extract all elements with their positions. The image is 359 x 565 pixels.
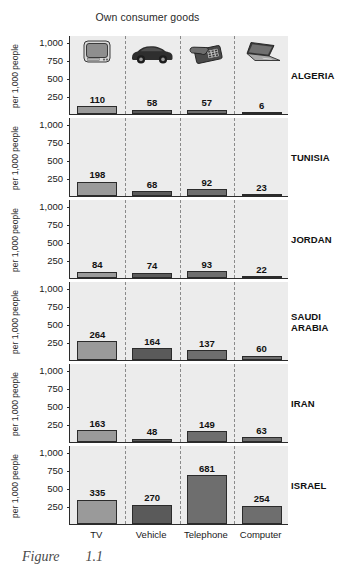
bar-value-label: 149 <box>199 420 215 430</box>
category-cell: 6 <box>234 36 289 114</box>
plot-area: 26416413760 <box>69 282 288 361</box>
bar <box>132 348 172 360</box>
bar <box>132 439 172 442</box>
bar <box>187 475 227 524</box>
plot-area: 110 58 57 6 <box>69 36 288 115</box>
y-tick-label: 500 <box>47 402 63 412</box>
category-cell: 110 <box>70 36 125 114</box>
category-cell: 23 <box>234 118 289 196</box>
country-label: IRAN <box>291 398 315 410</box>
y-axis-ticks: 1,000750500250 <box>20 364 66 443</box>
y-tick-label: 750 <box>47 302 63 312</box>
bar-value-label: 270 <box>144 493 160 503</box>
bar-value-label: 254 <box>254 494 270 504</box>
category-cell: 93 <box>180 200 235 278</box>
category-cell: 264 <box>70 282 125 360</box>
country-label: ISRAEL <box>291 480 326 492</box>
category-cell: 163 <box>70 364 125 442</box>
bar <box>187 271 227 278</box>
y-tick-label: 500 <box>47 484 63 494</box>
chart-title: Own consumer goods <box>0 11 359 23</box>
bar <box>132 273 172 278</box>
category-cell: 92 <box>180 118 235 196</box>
bar-value-label: 57 <box>202 98 213 108</box>
bar-value-label: 63 <box>256 426 267 436</box>
bar <box>242 112 282 114</box>
telephone-icon <box>183 38 231 66</box>
category-cell: 63 <box>234 364 289 442</box>
y-tick-label: 750 <box>47 220 63 230</box>
y-axis-ticks: 1,000750500250 <box>20 446 66 525</box>
y-tick-label: 1,000 <box>39 120 63 130</box>
bar <box>242 356 282 360</box>
caption-number: 1.1 <box>86 549 104 564</box>
consumer-goods-chart: Own consumer goods per 1,000 people1,000… <box>0 0 359 565</box>
x-axis-label: TV <box>90 529 102 540</box>
category-cell: 74 <box>125 200 180 278</box>
y-axis-ticks: 1,000750500250 <box>20 200 66 279</box>
y-tick-label: 250 <box>47 338 63 348</box>
bar-value-label: 92 <box>202 178 213 188</box>
category-cell: 149 <box>180 364 235 442</box>
country-panel: per 1,000 people1,000750500250198689223T… <box>0 118 359 197</box>
plot-inner: 335270681254 <box>70 446 288 524</box>
plot-inner: 26416413760 <box>70 282 288 360</box>
country-label: SAUDI ARABIA <box>291 310 329 333</box>
category-cell: 270 <box>125 446 180 524</box>
plot-inner: 198689223 <box>70 118 288 196</box>
y-axis-title: per 1,000 people <box>10 36 20 115</box>
y-axis-title: per 1,000 people <box>10 200 20 279</box>
figure-caption: Figure1.1 <box>22 549 103 565</box>
y-tick-label: 250 <box>47 174 63 184</box>
plot-area: 198689223 <box>69 118 288 197</box>
television-icon <box>73 38 121 66</box>
y-axis-ticks: 1,000750500250 <box>20 282 66 361</box>
bar-value-label: 163 <box>89 419 105 429</box>
category-cell: 58 <box>125 36 180 114</box>
x-axis-label: Vehicle <box>136 529 167 540</box>
y-tick-label: 250 <box>47 420 63 430</box>
y-tick-label: 500 <box>47 74 63 84</box>
bar-value-label: 681 <box>199 464 215 474</box>
y-tick-label: 1,000 <box>39 366 63 376</box>
category-cell: 48 <box>125 364 180 442</box>
category-cell: 68 <box>125 118 180 196</box>
panel-stack: per 1,000 people1,000750500250110 58 57 … <box>0 36 359 525</box>
category-cell: 22 <box>234 200 289 278</box>
bar <box>77 272 117 278</box>
bar-value-label: 93 <box>202 260 213 270</box>
bar-value-label: 84 <box>92 260 103 270</box>
bar <box>132 191 172 196</box>
laptop-icon <box>238 38 286 66</box>
plot-area: 335270681254 <box>69 446 288 525</box>
bar <box>242 276 282 278</box>
bar-value-label: 264 <box>89 330 105 340</box>
bar-value-label: 22 <box>256 265 267 275</box>
country-panel: per 1,000 people1,0007505002503352706812… <box>0 446 359 525</box>
country-panel: per 1,000 people1,0007505002502641641376… <box>0 282 359 361</box>
country-panel: per 1,000 people1,00075050025084749322JO… <box>0 200 359 279</box>
plot-inner: 1634814963 <box>70 364 288 442</box>
bar-value-label: 58 <box>147 98 158 108</box>
plot-area: 1634814963 <box>69 364 288 443</box>
bar <box>77 341 117 360</box>
bar <box>187 350 227 360</box>
bar-value-label: 164 <box>144 337 160 347</box>
category-cell: 60 <box>234 282 289 360</box>
category-cell: 57 <box>180 36 235 114</box>
x-axis-label: Computer <box>240 529 282 540</box>
bar <box>187 189 227 196</box>
y-tick-label: 250 <box>47 92 63 102</box>
category-cell: 335 <box>70 446 125 524</box>
y-tick-label: 1,000 <box>39 38 63 48</box>
bar <box>132 110 172 114</box>
y-tick-label: 750 <box>47 466 63 476</box>
category-cell: 198 <box>70 118 125 196</box>
category-cell: 681 <box>180 446 235 524</box>
y-tick-label: 500 <box>47 156 63 166</box>
bar-value-label: 6 <box>259 101 264 111</box>
y-tick-label: 1,000 <box>39 448 63 458</box>
bar <box>242 506 282 524</box>
bar-value-label: 60 <box>256 344 267 354</box>
bar-value-label: 198 <box>89 170 105 180</box>
